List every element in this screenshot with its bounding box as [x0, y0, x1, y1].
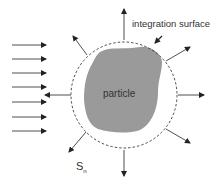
surface-subscript: n	[83, 168, 86, 174]
surface-symbol-label: Sn	[76, 160, 87, 174]
surface-pointer-arrow	[155, 36, 162, 43]
incoming-flow-arrows	[12, 45, 46, 131]
integration-surface-label: integration surface	[132, 18, 210, 29]
particle-label: particle	[103, 88, 135, 99]
